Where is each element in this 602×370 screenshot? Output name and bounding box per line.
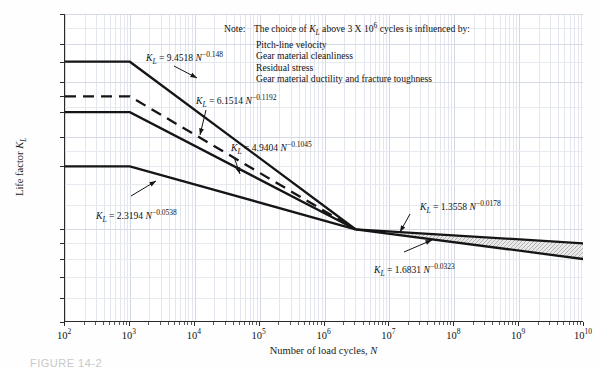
x-minor-tick-mark [515,322,516,325]
x-minor-tick-mark [309,322,310,325]
y-axis-title-text: Life factor [14,149,25,196]
y-tick-mark [60,229,64,230]
x-minor-tick-mark [382,322,383,325]
eq-upper-band: KL = 1.3558 N−0.0178 [420,199,501,215]
eq-160bhn-exponent: −0.0538 [152,208,177,217]
x-tick-mark [64,322,65,326]
eq-casecarb-coefficient: = 6.1514 [207,95,246,106]
x-minor-tick-mark [504,322,505,325]
x-tick-mark [583,322,584,326]
y-tick-mark [60,112,64,113]
eq-160bhn: KL = 2.3194 N−0.0538 [96,208,177,224]
x-tick-mark [194,322,195,326]
x-minor-tick-mark [313,322,314,325]
x-tick-label-10e5: 105 [239,326,279,341]
y-tick-mark [60,62,64,63]
eq-casecarb-exponent: −0.1192 [252,93,277,102]
note-heading-pre: The choice of [254,23,309,34]
x-minor-tick-mark [278,322,279,325]
x-minor-tick-mark [298,322,299,325]
x-minor-tick-mark [168,322,169,325]
x-minor-tick-mark [123,322,124,325]
x-minor-tick-mark [538,322,539,325]
note-heading-post: above 3 X 10 [320,23,374,34]
x-minor-tick-mark [354,322,355,325]
x-tick-mark [518,322,519,326]
x-minor-tick-mark [343,322,344,325]
y-tick-mark [60,259,64,260]
x-minor-tick-mark [512,322,513,325]
x-minor-tick-mark [427,322,428,325]
y-tick-mark [60,298,64,299]
x-minor-tick-mark [557,322,558,325]
x-minor-tick-mark [244,322,245,325]
x-tick-label-10e8: 108 [433,326,473,341]
x-minor-tick-mark [549,322,550,325]
x-minor-tick-mark [191,322,192,325]
x-minor-tick-mark [239,322,240,325]
x-tick-mark [324,322,325,326]
figure-caption: FIGURE 14-2 [30,357,102,369]
eq-400bhn-exponent: −0.148 [202,50,223,59]
x-minor-tick-mark [443,322,444,325]
x-minor-tick-mark [492,322,493,325]
x-minor-tick-mark [114,322,115,325]
x-minor-tick-mark [126,322,127,325]
x-minor-tick-mark [304,322,305,325]
x-minor-tick-mark [95,322,96,325]
x-minor-tick-mark [233,322,234,325]
x-tick-label-10e9: 109 [498,326,538,341]
x-minor-tick-mark [290,322,291,325]
x-minor-tick-mark [419,322,420,325]
x-minor-tick-mark [225,322,226,325]
note-item-list: Pitch-line velocityGear material cleanli… [224,39,470,85]
y-axis-symbol: K [14,142,25,149]
x-minor-tick-mark [184,322,185,325]
x-minor-tick-mark [179,322,180,325]
x-tick-label-10e6: 106 [304,326,344,341]
x-minor-tick-mark [450,322,451,325]
y-tick-mark [60,96,64,97]
note-label: Note: [224,23,254,35]
x-minor-tick-mark [160,322,161,325]
x-minor-tick-mark [84,322,85,325]
x-minor-tick-mark [408,322,409,325]
eq-lower-band: KL = 1.6831 N−0.0323 [374,262,455,278]
x-minor-tick-mark [573,322,574,325]
eq-lower-band-coefficient: = 1.6831 [385,264,424,275]
x-minor-tick-mark [385,322,386,325]
x-tick-mark [129,322,130,326]
x-minor-tick-mark [484,322,485,325]
eq-upper-band-coefficient: = 1.3558 [431,201,470,212]
eq-250bhn-coefficient: = 4.9404 [242,142,281,153]
x-tick-label-10e2: 102 [44,326,84,341]
x-minor-tick-mark [187,322,188,325]
x-minor-tick-mark [363,322,364,325]
x-minor-tick-mark [580,322,581,325]
eq-160bhn-coefficient: = 2.3194 [107,210,146,221]
note-heading-tail: cycles is influenced by: [377,23,470,34]
x-minor-tick-mark [249,322,250,325]
x-axis-title-text: Number of load cycles, [270,345,371,356]
x-minor-tick-mark [213,322,214,325]
x-minor-tick-mark [563,322,564,325]
x-tick-label-10e4: 104 [174,326,214,341]
x-minor-tick-mark [378,322,379,325]
x-tick-label-10e3: 103 [109,326,149,341]
x-minor-tick-mark [577,322,578,325]
x-minor-tick-mark [256,322,257,325]
x-minor-tick-mark [119,322,120,325]
y-tick-mark [60,82,64,83]
x-minor-tick-mark [252,322,253,325]
x-minor-tick-mark [109,322,110,325]
eq-250bhn-exponent: −0.1045 [287,140,312,149]
x-minor-tick-mark [317,322,318,325]
x-minor-tick-mark [174,322,175,325]
eq-250bhn: KL = 4.9404 N−0.1045 [231,140,312,156]
y-tick-mark [60,137,64,138]
x-minor-tick-mark [369,322,370,325]
x-minor-tick-mark [434,322,435,325]
note-item-2: Residual stress [256,62,470,74]
eq-casecarb: KL = 6.1514 N−0.1192 [196,93,277,109]
x-axis-title: Number of load cycles, N [64,345,583,356]
